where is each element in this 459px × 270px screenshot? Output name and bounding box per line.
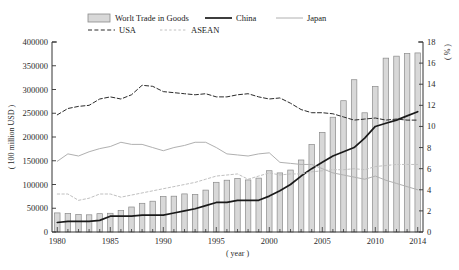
y2-tick-label: 2 <box>427 206 431 216</box>
y-tick-label: 50000 <box>27 203 48 213</box>
bar <box>235 178 241 232</box>
y-tick-label: 100000 <box>23 180 49 190</box>
y2-axis-title: ( % ) <box>443 44 452 60</box>
y-tick-label: 150000 <box>23 156 49 166</box>
x-tick-label: 2000 <box>261 236 278 246</box>
y2-tick-label: 10 <box>427 121 436 131</box>
x-axis-ticks: 19801985199019952000200520102014 <box>49 227 427 246</box>
y2-tick-label: 6 <box>427 164 431 174</box>
bar <box>245 180 251 232</box>
y-tick-label: 250000 <box>23 108 49 118</box>
y-axis-left-ticks: 0500001000001500002000002500003000003500… <box>23 37 57 237</box>
bar <box>362 113 368 232</box>
bar <box>182 194 188 232</box>
y-tick-label: 300000 <box>23 85 49 95</box>
bar <box>394 56 400 232</box>
y-tick-label: 200000 <box>23 132 49 142</box>
bar <box>224 180 230 232</box>
legend-label-japan: Japan <box>307 13 327 23</box>
bar <box>351 80 357 232</box>
y2-tick-label: 16 <box>427 58 436 68</box>
legend: Worlt Trade in GoodsChinaJapanUSAASEAN <box>88 13 327 35</box>
bar <box>139 203 145 232</box>
trade-share-chart: 0500001000001500002000002500003000003500… <box>0 0 459 270</box>
y-tick-label: 350000 <box>23 61 49 71</box>
bar <box>203 190 209 232</box>
y2-tick-label: 14 <box>427 79 436 89</box>
bar <box>267 171 273 232</box>
bar <box>415 53 421 232</box>
x-tick-label: 1990 <box>155 236 172 246</box>
bar <box>129 207 135 232</box>
bar <box>256 178 262 232</box>
legend-label-china: China <box>236 13 257 23</box>
x-axis-title: ( year ) <box>226 249 249 258</box>
bar <box>373 86 379 232</box>
bar <box>404 54 410 232</box>
bars-group <box>55 53 421 232</box>
bar <box>192 194 198 232</box>
bar <box>383 58 389 232</box>
y-axis-right-ticks: 024681012141618 <box>419 37 436 237</box>
bar <box>214 182 220 232</box>
bar <box>309 145 315 232</box>
x-tick-label: 2014 <box>409 236 427 246</box>
y-axis-title: ( 100 million USD ) <box>7 104 16 169</box>
y2-tick-label: 8 <box>427 143 431 153</box>
x-tick-label: 2010 <box>367 236 384 246</box>
bar <box>298 160 304 232</box>
bar <box>320 132 326 232</box>
x-tick-label: 1995 <box>208 236 225 246</box>
legend-label-bar: Worlt Trade in Goods <box>115 13 189 23</box>
y2-tick-label: 0 <box>427 227 431 237</box>
bar <box>288 170 294 232</box>
y-tick-label: 0 <box>44 227 48 237</box>
x-tick-label: 1985 <box>102 236 119 246</box>
bar <box>330 117 336 232</box>
legend-swatch-bar <box>88 14 110 22</box>
bar <box>341 101 347 232</box>
y2-tick-label: 18 <box>427 37 436 47</box>
bar <box>150 201 156 232</box>
x-tick-label: 1980 <box>49 236 66 246</box>
legend-label-usa: USA <box>119 25 137 35</box>
x-tick-label: 2005 <box>314 236 331 246</box>
chart-container: 0500001000001500002000002500003000003500… <box>0 0 459 270</box>
y-tick-label: 400000 <box>23 37 49 47</box>
y2-tick-label: 12 <box>427 100 436 110</box>
bar <box>277 173 283 232</box>
legend-label-asean: ASEAN <box>191 25 219 35</box>
y2-tick-label: 4 <box>427 185 432 195</box>
bar <box>118 211 124 232</box>
